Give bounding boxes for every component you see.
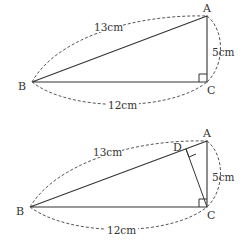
- right-angle-mark-d: [186, 149, 196, 157]
- vertex-label-a: A: [202, 2, 212, 15]
- measure-ab: 13cm: [94, 21, 123, 33]
- measure-ab: 13cm: [93, 146, 122, 158]
- vertex-label-b: B: [18, 80, 26, 93]
- vertex-label-c: C: [207, 84, 215, 97]
- geometry-figure: A B C 13cm 5cm 12cm A B C D 13cm 5cm 12c…: [0, 0, 250, 248]
- triangle-abc-bottom: A B C D 13cm 5cm 12cm: [16, 127, 235, 236]
- measure-ac: 5cm: [212, 171, 235, 183]
- vertex-label-c: C: [207, 209, 215, 222]
- vertex-label-a: A: [202, 127, 212, 140]
- altitude-cd: [186, 149, 207, 207]
- vertex-label-d: D: [173, 141, 182, 154]
- measure-bc: 12cm: [108, 99, 137, 111]
- measure-bc: 12cm: [107, 224, 136, 236]
- measure-ac: 5cm: [212, 46, 235, 58]
- right-angle-mark-c: [199, 74, 207, 82]
- vertex-label-b: B: [16, 205, 24, 218]
- triangle-abc-top: A B C 13cm 5cm 12cm: [18, 2, 235, 111]
